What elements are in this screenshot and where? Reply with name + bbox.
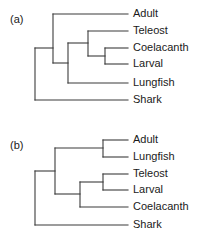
panel-a-leaf-label-larval: Larval [133, 57, 163, 69]
panel-label-a: (a) [10, 13, 23, 25]
panel-a-leaf-label-adult: Adult [133, 7, 158, 19]
panel-label-b: (b) [10, 139, 23, 151]
panel-a-cladogram: (a)AdultTeleostCoelacanthLarvalLungfishS… [10, 7, 189, 105]
panel-b-leaf-label-larval: Larval [133, 183, 163, 195]
panel-a-leaf-label-teleost: Teleost [133, 24, 168, 36]
panel-b-cladogram: (b)AdultLungfishTeleostLarvalCoelacanthS… [10, 133, 189, 230]
panel-a-leaf-label-coelacanth: Coelacanth [133, 41, 189, 53]
cladogram-canvas: (a)AdultTeleostCoelacanthLarvalLungfishS… [0, 0, 202, 241]
panel-b-leaf-label-lungfish: Lungfish [133, 150, 175, 162]
panel-b-leaf-label-shark: Shark [133, 218, 162, 230]
panel-b-leaf-label-teleost: Teleost [133, 167, 168, 179]
phylogenetic-tree-figure: (a)AdultTeleostCoelacanthLarvalLungfishS… [0, 0, 202, 241]
panel-b-leaf-label-adult: Adult [133, 133, 158, 145]
panel-a-leaf-label-shark: Shark [133, 93, 162, 105]
panel-b-leaf-label-coelacanth: Coelacanth [133, 200, 189, 212]
panel-a-leaf-label-lungfish: Lungfish [133, 76, 175, 88]
